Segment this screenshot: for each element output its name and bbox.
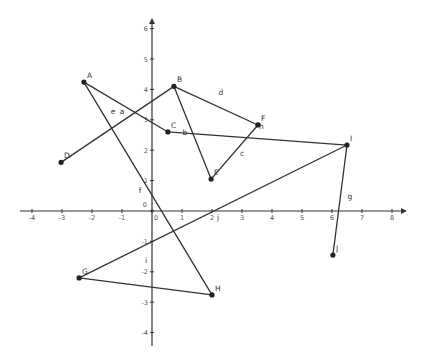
y-tick-label: 6 — [144, 25, 148, 33]
x-tick-label: 1 — [180, 214, 184, 222]
segment-a[interactable] — [84, 82, 168, 132]
segments — [61, 82, 347, 295]
x-tick-label: 6 — [330, 214, 334, 222]
y-axis-arrow-icon — [149, 18, 155, 24]
point-E[interactable] — [209, 176, 214, 181]
y-tick-label: -4 — [142, 329, 148, 337]
segment-label-a: a — [120, 107, 125, 116]
y-tick-label: 2 — [144, 147, 148, 155]
x-tick-label: -1 — [119, 214, 125, 222]
point-label-H: H — [215, 284, 221, 293]
x-tick-label: -2 — [89, 214, 95, 222]
point-H[interactable] — [209, 292, 214, 297]
y-tick-label: 5 — [144, 56, 148, 64]
point-label-I: I — [350, 134, 352, 143]
point-label-J: J — [335, 244, 338, 253]
point-label-F: F — [261, 114, 265, 123]
labels: abcdefghijABCDEFGHIJ — [64, 71, 353, 293]
x-axis-arrow-icon — [401, 208, 407, 214]
origin-label-y: 0 — [143, 201, 147, 209]
segment-g[interactable] — [333, 145, 347, 255]
point-A[interactable] — [81, 80, 86, 85]
segment-label-e: e — [111, 107, 116, 116]
coordinate-plane: -4-3-2-112345678-4-3-2-112345600 abcdefg… — [0, 0, 422, 364]
x-tick-label: 3 — [240, 214, 244, 222]
y-tick-label: 4 — [144, 86, 148, 94]
segment-label-b: b — [183, 128, 188, 137]
x-tick-label: 2 — [210, 214, 214, 222]
point-label-B: B — [177, 75, 182, 84]
segment-f[interactable] — [84, 82, 212, 295]
geometry-canvas[interactable]: -4-3-2-112345678-4-3-2-112345600 abcdefg… — [0, 0, 422, 364]
point-label-G: G — [82, 267, 88, 276]
point-I[interactable] — [344, 142, 349, 147]
x-tick-label: 5 — [300, 214, 304, 222]
point-D[interactable] — [59, 160, 64, 165]
point-G[interactable] — [77, 275, 82, 280]
segment-label-h: h — [259, 122, 264, 131]
segment-label-f: f — [139, 186, 142, 195]
segment-label-c: c — [240, 149, 244, 158]
segment-label-g: g — [348, 192, 353, 201]
segment-label-i: i — [145, 256, 147, 265]
segment-label-j: j — [216, 213, 219, 222]
point-label-D: D — [64, 151, 70, 160]
y-tick-label: -3 — [142, 299, 148, 307]
x-tick-label: -4 — [29, 214, 35, 222]
segment-label-d: d — [219, 88, 224, 97]
point-label-E: E — [214, 168, 219, 177]
point-B[interactable] — [171, 84, 176, 89]
y-tick-label: -2 — [142, 268, 148, 276]
x-tick-label: -3 — [59, 214, 65, 222]
point-label-A: A — [87, 71, 93, 80]
segment-i[interactable] — [79, 278, 212, 295]
x-tick-label: 7 — [360, 214, 364, 222]
point-label-C: C — [171, 121, 176, 130]
x-tick-label: 8 — [390, 214, 394, 222]
origin-label-x: 0 — [154, 214, 158, 222]
segment-e[interactable] — [61, 86, 174, 162]
point-C[interactable] — [165, 129, 170, 134]
x-tick-label: 4 — [270, 214, 274, 222]
point-J[interactable] — [330, 252, 335, 257]
